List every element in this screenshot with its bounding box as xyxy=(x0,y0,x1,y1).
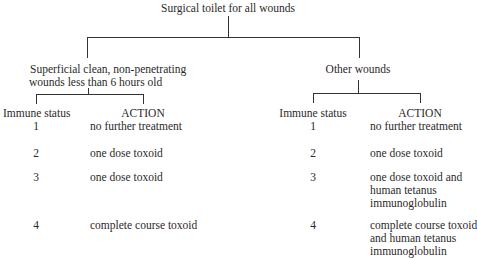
left-action-drop xyxy=(143,94,144,104)
action-value: one dose toxoid xyxy=(370,147,443,160)
left-branch-drop xyxy=(87,37,88,58)
right-status-drop xyxy=(313,93,314,103)
action-value-line: immunoglobulin xyxy=(370,245,447,258)
action-header: ACTION xyxy=(121,107,164,120)
action-value-line: one dose toxoid and xyxy=(370,171,462,184)
branch-label-line: Other wounds xyxy=(326,63,391,76)
root-branch-bar xyxy=(87,37,360,38)
action-value: complete course toxoid xyxy=(90,219,197,232)
left-status-drop xyxy=(36,94,37,104)
immune-status-header: Immune status xyxy=(3,107,70,120)
status-value: 4 xyxy=(310,219,316,232)
root-connector xyxy=(228,16,229,38)
status-value: 3 xyxy=(310,171,316,184)
status-value: 2 xyxy=(310,147,316,160)
status-value: 2 xyxy=(33,147,39,160)
action-value-line: human tetanus xyxy=(370,184,437,197)
branch-label-line: wounds less than 6 hours old xyxy=(29,76,162,89)
root-node: Surgical toilet for all wounds xyxy=(161,2,295,15)
right-action-drop xyxy=(420,93,421,103)
action-value-line: complete course toxoid xyxy=(370,219,477,232)
status-value: 3 xyxy=(33,171,39,184)
action-value: no further treatment xyxy=(370,120,462,133)
status-value: 4 xyxy=(33,219,39,232)
status-value: 1 xyxy=(310,120,316,133)
status-value: 1 xyxy=(33,120,39,133)
branch-label-line: Superficial clean, non-penetrating xyxy=(30,63,186,76)
right-branch-drop xyxy=(359,37,360,58)
action-value: one dose toxoid xyxy=(90,147,163,160)
right-sub-connector xyxy=(358,80,359,94)
action-value-line: immunoglobulin xyxy=(370,197,447,210)
action-value: no further treatment xyxy=(90,120,182,133)
right-sub-bar xyxy=(313,93,421,94)
left-sub-bar xyxy=(36,94,144,95)
action-value: one dose toxoid xyxy=(90,171,163,184)
action-header: ACTION xyxy=(398,107,441,120)
action-value-line: and human tetanus xyxy=(370,232,456,245)
immune-status-header: Immune status xyxy=(279,107,346,120)
